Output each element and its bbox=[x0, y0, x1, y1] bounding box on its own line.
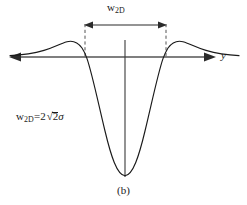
width-arrowhead-right-icon bbox=[158, 22, 167, 29]
width-label: w2D bbox=[107, 2, 125, 15]
equation-radical: √2 bbox=[46, 111, 59, 122]
width-equation: w2D=2√2σ bbox=[16, 111, 64, 124]
axis-arrowhead-right-icon bbox=[204, 52, 216, 61]
mexican-hat-plot bbox=[0, 0, 247, 205]
radical-vinculum bbox=[52, 112, 58, 113]
equation-lhs-subscript: 2D bbox=[24, 115, 34, 124]
width-label-subscript: 2D bbox=[115, 6, 125, 15]
axis-label-y: y bbox=[221, 50, 226, 61]
figure-container: y w2D w2D=2√2σ (b) bbox=[0, 0, 247, 205]
horizontal-axis bbox=[9, 52, 216, 61]
figure-caption: (b) bbox=[0, 185, 247, 196]
width-measure-arrow bbox=[84, 22, 167, 29]
equation-sigma: σ bbox=[58, 110, 63, 122]
equation-lhs-symbol: w bbox=[16, 110, 24, 122]
width-arrowhead-left-icon bbox=[84, 22, 93, 29]
axis-arrowhead-left-icon bbox=[9, 52, 21, 61]
